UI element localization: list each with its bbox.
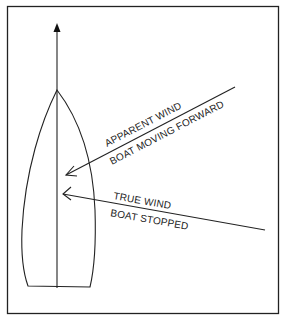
true-wind-arrowhead-icon: [63, 187, 71, 200]
apparent-wind-line: [66, 87, 235, 175]
diagram-border: [8, 7, 279, 314]
boat-hull: [22, 90, 95, 287]
heading-arrow-icon: [54, 23, 61, 32]
wind-diagram: APPARENT WIND BOAT MOVING FORWARD TRUE W…: [0, 0, 283, 319]
boat-stopped-label: BOAT STOPPED: [110, 207, 190, 232]
